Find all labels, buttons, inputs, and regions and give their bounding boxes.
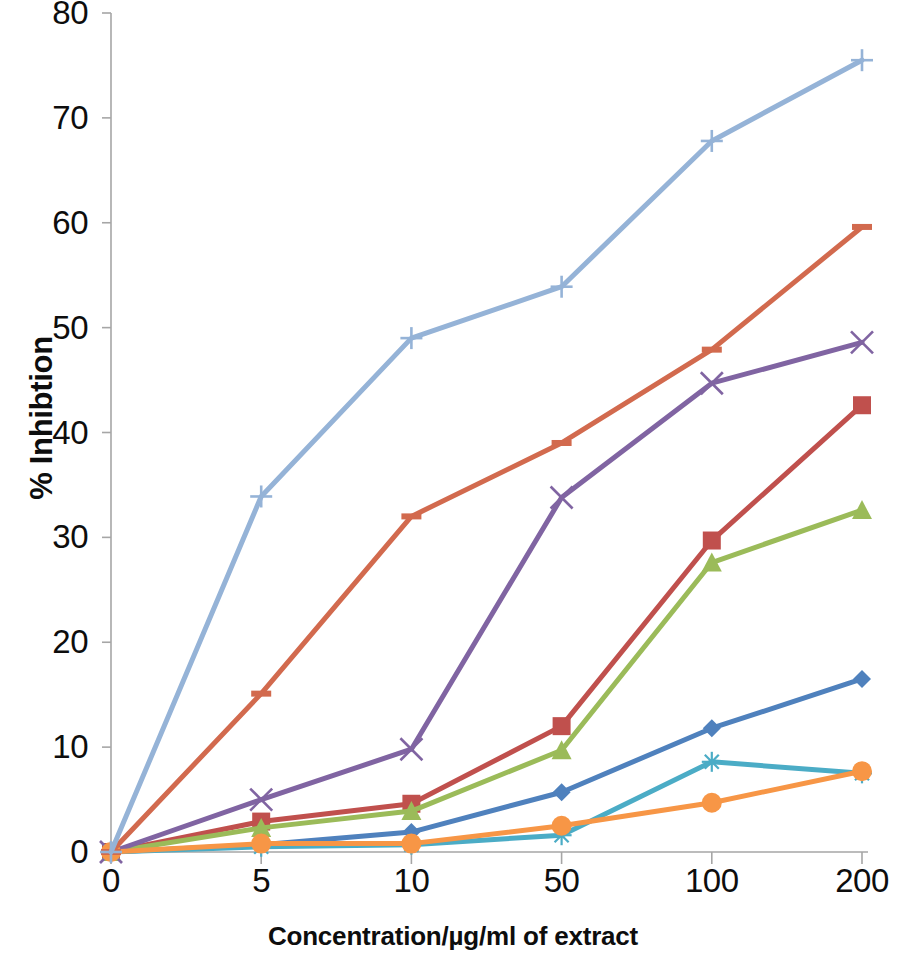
series-line [111, 405, 862, 852]
data-point-circle [401, 834, 421, 854]
data-point-dash [552, 440, 572, 446]
series-line [111, 762, 862, 852]
data-point-diamond [853, 670, 871, 688]
data-point-triangle [852, 500, 872, 519]
axis-lines [102, 13, 868, 864]
data-point-diamond [703, 719, 721, 737]
plot-area [0, 0, 906, 968]
data-point-square [703, 532, 721, 550]
data-point-circle [852, 761, 872, 781]
data-point-circle [552, 816, 572, 836]
data-point-square [553, 717, 571, 735]
data-point-diamond [553, 783, 571, 801]
line-chart: % Inhibtion Concentration/µg/ml of extra… [0, 0, 906, 968]
series-3 [101, 500, 872, 861]
data-point-dash [852, 224, 872, 230]
data-point-dash [702, 347, 722, 353]
series-7 [101, 224, 872, 855]
data-point-circle [251, 834, 271, 854]
data-point-circle [702, 793, 722, 813]
series-line [111, 510, 862, 852]
series-line [111, 227, 862, 852]
data-point-dash [401, 513, 421, 519]
data-point-square [853, 396, 871, 414]
data-point-dash [251, 691, 271, 697]
series-line [111, 342, 862, 852]
series-layer [100, 49, 873, 863]
